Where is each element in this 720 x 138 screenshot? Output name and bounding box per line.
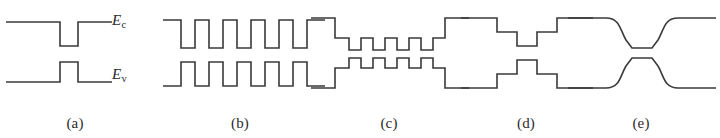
panel-a: Ec Ev (a) <box>0 0 150 138</box>
panel-c-caption: (c) <box>305 115 473 132</box>
valence-band-symbol: E <box>112 66 121 82</box>
panel-b-caption: (b) <box>155 115 325 132</box>
band-diagram-figure: Ec Ev (a) (b) (c) (d) ( <box>0 0 720 138</box>
valence-band-subscript: v <box>121 73 126 84</box>
panel-b: (b) <box>155 0 303 138</box>
panel-b-valence-band <box>163 62 325 86</box>
conduction-band-symbol: E <box>112 12 121 28</box>
panel-a-diagram <box>0 0 150 110</box>
conduction-band-label: Ec <box>112 12 126 29</box>
panel-c: (c) <box>305 0 455 138</box>
panel-c-conduction-band <box>311 18 469 50</box>
panel-e-caption: (e) <box>562 115 720 132</box>
panel-c-diagram <box>305 0 480 110</box>
panel-c-valence-band <box>311 58 469 88</box>
panel-e-conduction-band <box>568 18 716 48</box>
panel-e-diagram <box>562 0 720 110</box>
panel-a-conduction-band <box>6 22 112 46</box>
panel-b-conduction-band <box>163 20 325 48</box>
panel-e-valence-band <box>568 58 716 88</box>
panel-a-caption: (a) <box>0 115 150 132</box>
panel-a-valence-band <box>6 62 112 82</box>
conduction-band-subscript: c <box>121 19 126 30</box>
panel-e: (e) <box>562 0 720 138</box>
valence-band-label: Ev <box>112 66 126 83</box>
